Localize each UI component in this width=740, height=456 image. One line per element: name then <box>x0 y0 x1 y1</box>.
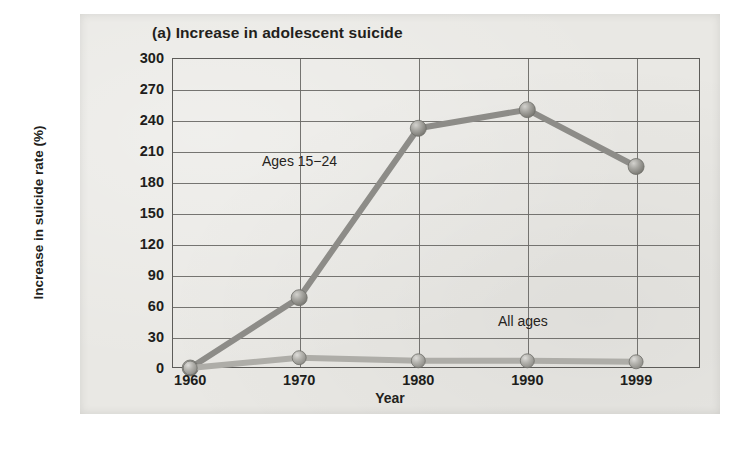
x-axis-tick-label: 1960 <box>174 372 206 388</box>
figure-root: (a) Increase in adolescent suicide Incre… <box>0 0 740 456</box>
series-ages-15-24-marker <box>519 102 535 118</box>
x-axis-tick-label: 1999 <box>620 372 652 388</box>
series-label-ages-15-24: Ages 15−24 <box>262 153 337 169</box>
series-ages-15-24-line <box>190 110 636 368</box>
series-all-ages-marker <box>629 355 643 369</box>
series-ages-15-24-marker <box>410 120 426 136</box>
x-axis-tick-label: 1970 <box>283 372 315 388</box>
series-all-ages-marker <box>520 354 534 368</box>
series-ages-15-24 <box>182 102 644 376</box>
series-ages-15-24-marker <box>628 159 644 175</box>
series-ages-15-24-marker <box>291 290 307 306</box>
x-axis-tick-label: 1990 <box>511 372 543 388</box>
x-axis-tick-label: 1980 <box>402 372 434 388</box>
series-all-ages-marker <box>411 354 425 368</box>
series-all-ages-marker <box>292 351 306 365</box>
series-label-all-ages: All ages <box>498 313 548 329</box>
